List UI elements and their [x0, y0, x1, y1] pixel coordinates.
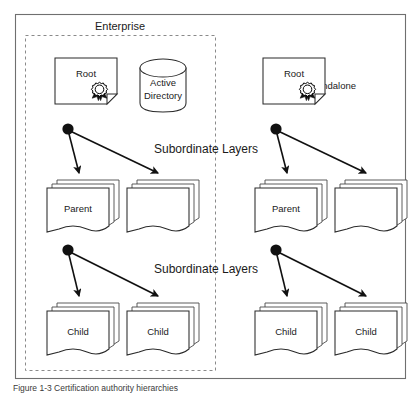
standalone-child-1-label: Child	[275, 326, 297, 337]
subordinate-layers-label-upper: Subordinate Layers	[154, 142, 258, 156]
enterprise-root-label: Root	[76, 68, 96, 79]
enterprise-lower-junction-dot	[62, 244, 73, 255]
certificate-seal-icon	[299, 82, 315, 100]
subordinate-layers-label-lower: Subordinate Layers	[154, 262, 258, 276]
active-directory-node[interactable]: Active Directory	[140, 59, 186, 112]
document-stack-icon	[127, 180, 199, 232]
certificate-document-icon	[263, 58, 325, 104]
enterprise-child-2-label: Child	[147, 326, 169, 337]
standalone-lower-junction-dot	[270, 244, 281, 255]
standalone-parent-1-label: Parent	[272, 203, 300, 214]
active-directory-label-line1: Active	[150, 77, 176, 88]
standalone-upper-junction-dot	[270, 123, 281, 134]
standalone-parent-node-2[interactable]	[335, 180, 407, 232]
standalone-child-node-2[interactable]: Child	[335, 303, 407, 355]
standalone-parent-node-1[interactable]: Parent	[255, 180, 327, 232]
enterprise-parent-node-2[interactable]	[127, 180, 199, 232]
standalone-child-2-label: Child	[355, 326, 377, 337]
enterprise-parent-1-label: Parent	[64, 203, 92, 214]
active-directory-label-line2: Directory	[144, 90, 182, 101]
enterprise-child-1-label: Child	[67, 326, 89, 337]
enterprise-upper-junction-dot	[62, 123, 73, 134]
figure-caption: Figure 1-3 Certification authority hiera…	[13, 383, 178, 393]
standalone-root-label: Root	[284, 68, 304, 79]
document-stack-icon	[335, 180, 407, 232]
standalone-root-node[interactable]: Root	[263, 58, 325, 104]
figure-container: Enterprise Standalone Root Active Direct…	[0, 0, 420, 393]
enterprise-group-label: Enterprise	[95, 20, 145, 32]
enterprise-parent-node-1[interactable]: Parent	[47, 180, 119, 232]
certificate-seal-icon	[91, 82, 107, 100]
enterprise-child-node-2[interactable]: Child	[127, 303, 199, 355]
certificate-document-icon	[55, 58, 117, 104]
standalone-child-node-1[interactable]: Child	[255, 303, 327, 355]
enterprise-child-node-1[interactable]: Child	[47, 303, 119, 355]
ca-hierarchy-diagram: Enterprise Standalone Root Active Direct…	[0, 0, 420, 393]
enterprise-root-node[interactable]: Root	[55, 58, 117, 104]
